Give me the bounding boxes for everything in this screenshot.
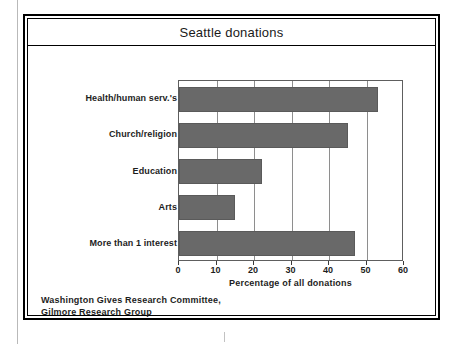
bar (179, 123, 348, 148)
x-axis-tick-label: 40 (313, 265, 343, 275)
x-axis-tick-label: 50 (351, 265, 381, 275)
page-bottom-tick-mark (224, 332, 225, 342)
bar (179, 231, 355, 256)
figure-outer-frame: Seattle donations Health/human serv.'sCh… (23, 14, 440, 320)
bar (179, 159, 262, 184)
x-axis-tick-label: 10 (201, 265, 231, 275)
x-axis-tick-label: 0 (163, 265, 193, 275)
category-label: Education (133, 164, 177, 178)
source-line: Washington Gives Research Committee, (41, 294, 221, 306)
category-label: Health/human serv.'s (85, 91, 177, 105)
figure-body: Health/human serv.'sChurch/religionEduca… (28, 46, 435, 315)
category-label: More than 1 interest (89, 236, 177, 250)
category-axis-labels: Health/human serv.'sChurch/religionEduca… (36, 80, 177, 261)
plot-area (178, 80, 403, 261)
category-label: Church/religion (109, 127, 177, 141)
x-axis-title: Percentage of all donations (178, 278, 403, 288)
x-axis-tick-label: 20 (238, 265, 268, 275)
x-axis-tick-label: 60 (388, 265, 418, 275)
bar (179, 195, 235, 220)
x-axis-tick-label: 30 (276, 265, 306, 275)
bar (179, 87, 378, 112)
figure-inner-frame: Seattle donations Health/human serv.'sCh… (27, 18, 436, 316)
source-line: Gilmore Research Group (41, 306, 221, 318)
bar-chart: Health/human serv.'sChurch/religionEduca… (28, 46, 435, 315)
category-label: Arts (159, 200, 177, 214)
page-margin-rule (17, 0, 18, 344)
title-band: Seattle donations (28, 19, 435, 46)
source-note: Washington Gives Research Committee,Gilm… (41, 294, 221, 318)
chart-title: Seattle donations (180, 25, 284, 40)
